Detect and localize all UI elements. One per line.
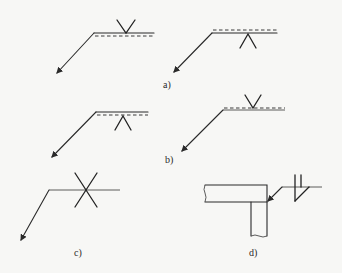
leader-arrow bbox=[52, 112, 96, 157]
fillet-weld-symbol-icon bbox=[295, 187, 309, 201]
v-groove-symbol-icon bbox=[117, 20, 135, 33]
vertical-plate bbox=[251, 202, 267, 236]
panel-c bbox=[21, 173, 120, 240]
panel-b-left bbox=[52, 112, 148, 157]
leader-arrow bbox=[174, 33, 212, 72]
panel-b-right bbox=[182, 95, 285, 151]
leader-arrow bbox=[182, 110, 223, 151]
plate-break-line bbox=[251, 235, 267, 237]
leader-arrow bbox=[268, 187, 282, 201]
panel-a-left bbox=[57, 20, 154, 73]
label-b: b) bbox=[165, 154, 173, 165]
plate-break-line bbox=[204, 185, 206, 202]
leader-arrow bbox=[57, 33, 94, 73]
inverted-v-groove-symbol-icon bbox=[115, 116, 131, 130]
horizontal-plate bbox=[205, 185, 267, 202]
panel-d bbox=[204, 175, 322, 237]
label-a: a) bbox=[163, 79, 171, 90]
panel-a-right bbox=[174, 30, 277, 72]
weld-symbol-diagram bbox=[0, 0, 342, 273]
label-d: d) bbox=[249, 247, 257, 258]
leader-arrow bbox=[21, 190, 49, 240]
inverted-v-groove-symbol-icon bbox=[240, 34, 256, 48]
v-groove-symbol-icon bbox=[245, 95, 261, 108]
label-c: c) bbox=[74, 247, 82, 258]
